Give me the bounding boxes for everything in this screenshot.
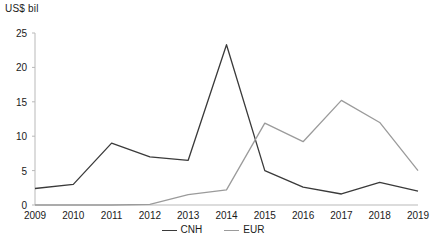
axis-lines [35, 33, 418, 205]
series-line-cnh [35, 45, 418, 194]
legend-label: EUR [243, 225, 264, 235]
series-line-eur [35, 100, 418, 205]
chart-legend: CNHEUR [0, 225, 426, 235]
legend-item-eur[interactable]: EUR [224, 225, 264, 235]
legend-item-cnh[interactable]: CNH [162, 225, 203, 235]
legend-swatch-eur [224, 230, 239, 231]
legend-label: CNH [181, 225, 203, 235]
legend-swatch-cnh [162, 230, 177, 231]
